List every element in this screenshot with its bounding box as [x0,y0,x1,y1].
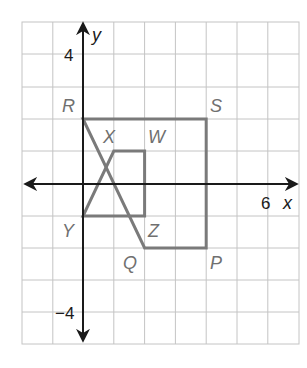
y-tick-label-neg4: −4 [55,304,74,323]
y-tick-label-4: 4 [64,46,73,65]
vertex-label-z: Z [147,221,160,241]
y-axis-label: y [90,25,102,45]
vertex-label-w: W [148,127,167,147]
x-tick-label-6: 6 [261,194,270,213]
vertex-label-q: Q [123,253,137,273]
x-axis-label: x [282,193,293,213]
vertex-label-r: R [62,96,75,116]
coordinate-plane: y x 4 −4 6 R S P Q X W Z Y [0,0,307,368]
vertex-label-y: Y [62,221,76,241]
vertex-label-x: X [102,127,116,147]
vertex-label-s: S [210,96,222,116]
vertex-label-p: P [210,253,222,273]
